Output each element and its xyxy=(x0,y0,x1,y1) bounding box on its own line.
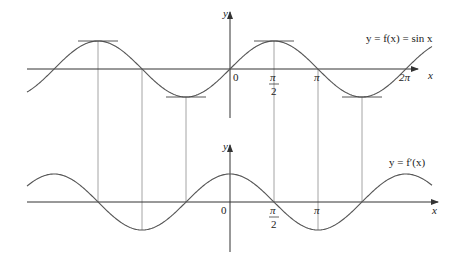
bottom-y-label: y xyxy=(222,140,228,152)
top-x-label: x xyxy=(427,69,433,81)
top-origin-label: 0 xyxy=(233,71,239,83)
top-tick-two-pi: 2π xyxy=(399,71,411,83)
figure-canvas: y x 0 π 2 π 2π y = f(x) = sin x y x 0 π … xyxy=(0,0,457,261)
top-graph: y x 0 π 2 π 2π y = f(x) = sin x xyxy=(27,7,433,118)
bottom-graph: y x 0 π 2 π y = f′(x) xyxy=(27,140,438,252)
top-tick-pi: π xyxy=(314,71,320,83)
bottom-x-label: x xyxy=(431,204,437,216)
bottom-tick-half-pi-num: π xyxy=(270,204,276,216)
top-function-label: y = f(x) = sin x xyxy=(366,32,433,45)
bottom-origin-label: 0 xyxy=(221,204,227,216)
bottom-function-label: y = f′(x) xyxy=(389,156,425,169)
bottom-tick-pi: π xyxy=(314,204,320,216)
top-tick-half-pi-num: π xyxy=(270,71,276,83)
top-tick-half-pi-den: 2 xyxy=(271,85,277,97)
bottom-tick-half-pi-den: 2 xyxy=(271,218,277,230)
top-y-label: y xyxy=(222,7,228,19)
